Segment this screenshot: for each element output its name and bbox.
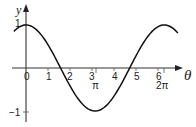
x-axis-label: θ [184, 67, 192, 83]
x-axis-arrow-icon [175, 65, 183, 71]
two-pi-label: 2π [156, 80, 169, 91]
y-tick-label-minus-1: −1 [9, 107, 21, 118]
x-ticks [48, 68, 164, 73]
cosine-graph: y θ 0 1 2 3 4 5 6 π 2π 1 −1 [0, 0, 196, 127]
x-tick-1: 1 [46, 71, 52, 82]
y-axis-arrow-icon [23, 4, 29, 12]
pi-label: π [92, 80, 99, 91]
x-tick-0: 0 [24, 71, 30, 82]
x-tick-4: 4 [112, 71, 118, 82]
y-axis-label: y [15, 3, 22, 17]
x-tick-5: 5 [134, 71, 140, 82]
x-tick-2: 2 [67, 71, 73, 82]
